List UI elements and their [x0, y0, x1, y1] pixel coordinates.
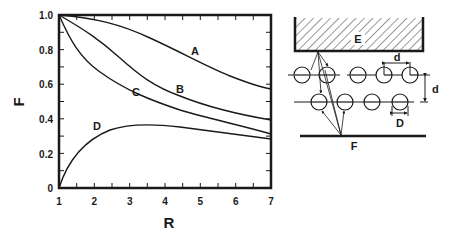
x-tick-label: 1 [56, 196, 62, 207]
tube-row-1 [288, 67, 430, 83]
y-tick-labels: 0 0.2 0.4 0.6 0.8 1.0 [39, 10, 53, 194]
y-ticks [59, 32, 271, 170]
y-axis-title: F [10, 97, 27, 106]
y-tick-label: 0.4 [39, 114, 53, 125]
curve-label-c: C [132, 86, 140, 98]
geometry-diagram: E [288, 17, 439, 152]
plot-frame [59, 15, 271, 188]
x-tick-label: 6 [233, 196, 239, 207]
y-tick-label: 0.2 [39, 149, 53, 160]
x-axis-title: R [164, 214, 175, 231]
x-tick-labels: 1 2 3 4 5 6 7 [56, 196, 274, 207]
row-spacing-dimension [420, 76, 428, 102]
curve-c [59, 15, 271, 134]
x-tick-label: 7 [268, 196, 274, 207]
x-tick-label: 4 [162, 196, 168, 207]
pitch-label: d [394, 51, 401, 63]
y-tick-label: 0 [47, 183, 53, 194]
figure: 0 0.2 0.4 0.6 0.8 1.0 1 2 3 4 5 6 7 R F [0, 0, 449, 241]
tube-row-2 [294, 94, 414, 110]
x-tick-label: 2 [92, 196, 98, 207]
chart: 0 0.2 0.4 0.6 0.8 1.0 1 2 3 4 5 6 7 R F [10, 10, 274, 231]
y-tick-label: 0.8 [39, 45, 53, 56]
y-tick-label: 0.6 [39, 79, 53, 90]
curve-a [59, 15, 271, 89]
x-tick-label: 5 [198, 196, 204, 207]
curve-label-a: A [191, 45, 199, 57]
row-spacing-label: d [432, 83, 439, 95]
curves [59, 15, 271, 188]
curve-d [59, 125, 271, 188]
view-rays-top [311, 52, 341, 135]
floor-label: F [351, 140, 358, 152]
y-tick-label: 1.0 [39, 10, 53, 21]
x-tick-label: 3 [127, 196, 133, 207]
curve-label-b: B [176, 83, 184, 95]
curve-label-d: D [93, 120, 101, 132]
x-ticks [77, 15, 254, 188]
diameter-label: D [396, 117, 404, 129]
emitter-label: E [354, 33, 361, 45]
